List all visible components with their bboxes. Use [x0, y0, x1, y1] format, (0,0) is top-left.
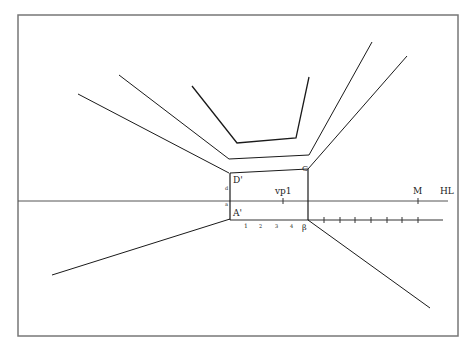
- label-small-d: d: [225, 185, 229, 191]
- perspective-diagram: D' A' C β vp1 M HL d a 1 2 3 4: [0, 0, 470, 353]
- back-wall-top-edge: [230, 169, 308, 173]
- ceiling-middle-edge: [229, 155, 309, 159]
- measuring-ticks: [283, 198, 418, 223]
- right-orthogonal-middle: [309, 42, 372, 155]
- left-orthogonal-middle: [119, 75, 229, 159]
- left-orthogonal-upper: [78, 94, 229, 173]
- floor-right-line: [308, 220, 430, 308]
- floor-left-line: [52, 219, 230, 275]
- label-vp1: vp1: [274, 186, 292, 196]
- ceiling-inner-shape: [192, 77, 309, 143]
- tick-label-2: 2: [259, 223, 262, 229]
- label-beta: β: [302, 223, 307, 232]
- tick-label-1: 1: [244, 222, 248, 229]
- label-m: M: [413, 186, 422, 196]
- label-hl: HL: [440, 186, 454, 196]
- label-d-prime: D': [233, 175, 243, 185]
- label-small-a: a: [225, 201, 228, 207]
- tick-label-3: 3: [275, 223, 278, 229]
- tick-label-4: 4: [290, 223, 293, 229]
- label-c: C: [302, 164, 308, 173]
- right-orthogonal-upper: [308, 56, 407, 169]
- label-a-prime: A': [232, 208, 242, 218]
